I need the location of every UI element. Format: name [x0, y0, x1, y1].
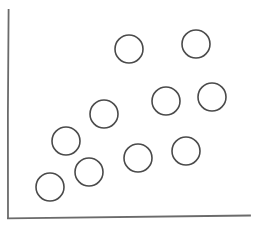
- data-point: [198, 83, 226, 111]
- data-point: [152, 87, 180, 115]
- scatter-plot-canvas: [0, 0, 259, 229]
- x-axis-line: [8, 216, 250, 219]
- data-point: [36, 173, 64, 201]
- data-point: [115, 35, 143, 63]
- scatter-plot-figure: [0, 0, 259, 229]
- data-point: [182, 30, 210, 58]
- data-point: [172, 137, 200, 165]
- plot-axes: [8, 10, 250, 218]
- data-point: [90, 100, 118, 128]
- data-point: [124, 144, 152, 172]
- data-points-group: [36, 30, 226, 201]
- data-point: [52, 127, 80, 155]
- data-point: [75, 158, 103, 186]
- y-axis-line: [8, 10, 9, 218]
